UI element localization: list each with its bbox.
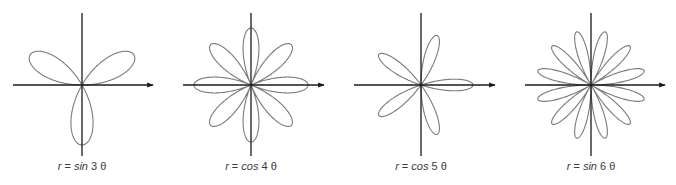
polar-rose-canvas [0,0,676,185]
caption-sin3: r = sin 3 θ [42,160,122,172]
caption-cos5: r = cos 5 θ [381,160,461,172]
caption-multiplier: 3 [91,160,97,172]
caption-theta: θ [271,160,277,172]
caption-sin6: r = sin 6 θ [551,160,631,172]
rose-plot-cos5 [354,13,495,156]
caption-variable: r [395,160,399,172]
caption-multiplier: 4 [262,160,268,172]
rose-plot-cos4 [183,13,324,156]
caption-equals: = [402,160,408,172]
caption-variable: r [225,160,229,172]
rose-plot-sin6 [525,13,665,156]
caption-theta: θ [441,160,447,172]
caption-function: sin [583,160,597,172]
caption-variable: r [58,160,62,172]
caption-function: cos [411,160,428,172]
caption-cos4: r = cos 4 θ [211,160,291,172]
caption-function: cos [241,160,258,172]
caption-variable: r [567,160,571,172]
caption-multiplier: 5 [432,160,438,172]
caption-theta: θ [100,160,106,172]
caption-multiplier: 6 [600,160,606,172]
caption-equals: = [232,160,238,172]
caption-theta: θ [609,160,615,172]
caption-function: sin [74,160,88,172]
caption-equals: = [64,160,70,172]
caption-equals: = [573,160,579,172]
rose-plot-sin3 [13,13,153,156]
